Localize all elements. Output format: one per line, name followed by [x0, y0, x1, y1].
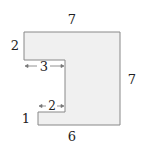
label-top: 7	[68, 12, 76, 27]
composite-shape	[24, 32, 120, 125]
label-lower-notch-width: 2	[48, 99, 56, 113]
label-upper-notch-width: 3	[40, 59, 48, 74]
label-left-top: 2	[11, 38, 19, 53]
label-left-bottom: 1	[22, 111, 30, 126]
composite-shape-diagram: 3 2 7 7 6 2 1	[0, 0, 142, 146]
label-bottom: 6	[68, 129, 76, 144]
label-right: 7	[128, 72, 136, 87]
